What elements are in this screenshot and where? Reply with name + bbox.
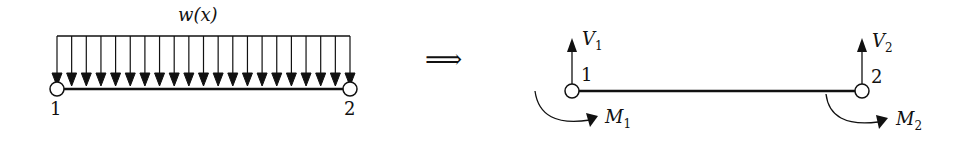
shear-arrow-v1	[567, 38, 577, 84]
right-node-1-label: 1	[581, 66, 592, 84]
distributed-load	[52, 36, 355, 89]
node-1-label: 1	[50, 100, 61, 118]
v2-label: V2	[872, 32, 893, 50]
load-label: w(x)	[178, 6, 218, 24]
m1-label: M1	[605, 108, 631, 126]
implies-arrow: ⟹	[425, 46, 462, 72]
node-1-circle	[50, 82, 64, 96]
node-2-label: 2	[344, 100, 355, 118]
shear-arrow-v2	[857, 38, 867, 84]
node-2-circle	[343, 82, 357, 96]
right-node-2-label: 2	[871, 68, 882, 86]
right-node-1-circle	[565, 84, 579, 98]
right-node-2-circle	[855, 84, 869, 98]
m2-label: M2	[896, 110, 922, 128]
diagram-canvas	[0, 0, 977, 141]
moment-arrow-m2	[826, 94, 888, 129]
v1-label: V1	[582, 30, 603, 48]
